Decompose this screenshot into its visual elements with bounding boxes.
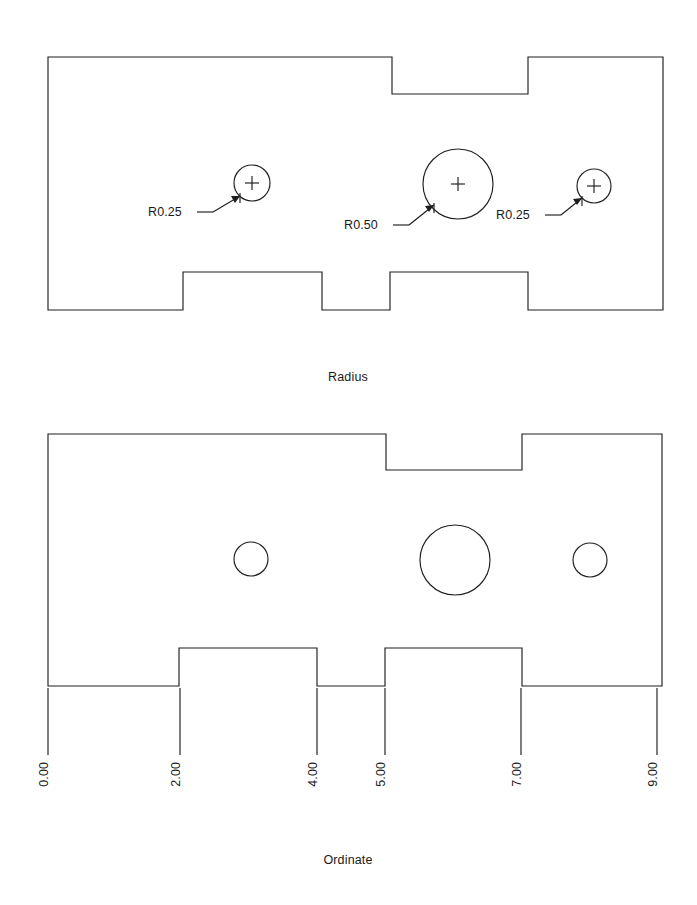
ordinate-tick-label-0: 0.00 <box>37 762 51 787</box>
hole-center-ordinate <box>420 525 490 595</box>
leader-arrowhead <box>231 196 240 203</box>
radius-label-right: R0.25 <box>496 208 530 222</box>
figure-caption-ordinate: Ordinate <box>323 853 372 867</box>
ordinate-tick-label-3: 5.00 <box>374 762 388 787</box>
radius-callout-right: R0.25 <box>496 196 582 222</box>
plate-outline-ordinate <box>48 434 662 686</box>
hole-left-ordinate <box>234 542 268 576</box>
figure-caption-radius: Radius <box>328 370 368 384</box>
ordinate-dimension-axis: 0.00 2.00 4.00 5.00 7.00 9.00 <box>37 688 660 787</box>
radius-label-left: R0.25 <box>148 205 182 219</box>
hole-left-radius <box>234 165 270 201</box>
radius-label-center: R0.50 <box>344 218 378 232</box>
radius-figure: R0.25 R0.50 R0.25 Radius <box>48 57 663 384</box>
drawing-sheet: R0.25 R0.50 R0.25 Radius <box>0 0 697 905</box>
ordinate-tick-label-2: 4.00 <box>306 762 320 787</box>
ordinate-tick-label-4: 7.00 <box>510 762 524 787</box>
radius-callout-center: R0.50 <box>344 203 434 232</box>
ordinate-tick-label-1: 2.00 <box>169 762 183 787</box>
plate-outline-radius <box>48 57 663 310</box>
technical-drawing-canvas: R0.25 R0.50 R0.25 Radius <box>0 0 697 905</box>
radius-callout-left: R0.25 <box>148 193 240 219</box>
ordinate-tick-label-5: 9.00 <box>646 762 660 787</box>
hole-right-ordinate <box>573 543 607 577</box>
ordinate-figure: 0.00 2.00 4.00 5.00 7.00 9.00 Ordinate <box>37 434 662 867</box>
